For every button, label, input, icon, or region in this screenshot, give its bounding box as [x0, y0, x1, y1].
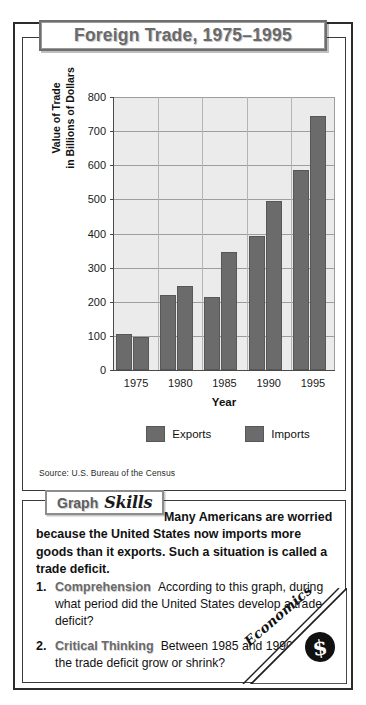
legend-item-exports: Exports — [146, 426, 211, 442]
bar-group — [114, 97, 158, 370]
y-axis-title-line1: Value of Trade — [50, 82, 62, 153]
x-tick-label: 1975 — [114, 377, 158, 389]
bar-exports-1985 — [204, 297, 220, 370]
y-axis-title-line2: in Billions of Dollars — [64, 67, 76, 169]
bar-imports-1995 — [310, 116, 326, 370]
question-title: Critical Thinking — [55, 639, 154, 653]
legend-label: Exports — [172, 428, 211, 440]
graph-skills-panel: Graph Skills Many Americans are worried … — [22, 500, 346, 683]
legend-swatch — [146, 426, 165, 442]
bar-exports-1975 — [116, 334, 132, 371]
bar-exports-1995 — [293, 170, 309, 370]
x-tick-label: 1985 — [202, 377, 246, 389]
graph-skills-badge: Graph Skills — [45, 490, 164, 515]
y-tick-label: 0 — [100, 364, 106, 376]
legend-item-imports: Imports — [245, 426, 309, 442]
badge-label-skills: Skills — [104, 493, 152, 512]
y-tick-label: 600 — [88, 159, 106, 171]
page-title: Foreign Trade, 1975–1995 — [74, 25, 292, 46]
y-tick-label: 200 — [88, 296, 106, 308]
y-tick-label: 400 — [88, 228, 106, 240]
bar-group — [247, 97, 291, 370]
lesson-card: Value of Trade in Billions of Dollars 01… — [13, 22, 353, 690]
legend-swatch — [245, 426, 264, 442]
bar-imports-1975 — [133, 337, 149, 370]
y-tick-mark — [110, 370, 114, 371]
y-tick-label: 800 — [88, 91, 106, 103]
source-note: Source: U.S. Bureau of the Census — [39, 468, 175, 478]
y-tick-label: 700 — [88, 125, 106, 137]
bar-imports-1990 — [266, 201, 282, 370]
x-tick-label: 1995 — [291, 377, 335, 389]
bar-exports-1980 — [160, 295, 176, 370]
legend-label: Imports — [271, 428, 309, 440]
x-tick-label: 1990 — [247, 377, 291, 389]
legend: ExportsImports — [113, 426, 343, 442]
question-title: Comprehension — [55, 580, 151, 594]
bar-imports-1980 — [177, 286, 193, 370]
badge-label-graph: Graph — [57, 495, 98, 511]
question-number: 1. — [36, 579, 47, 596]
title-banner: Foreign Trade, 1975–1995 — [39, 20, 327, 51]
bar-group — [158, 97, 202, 370]
x-axis-title: Year — [113, 396, 335, 408]
x-tick-label: 1980 — [158, 377, 202, 389]
y-tick-label: 500 — [88, 193, 106, 205]
question-number: 2. — [36, 638, 47, 655]
intro-paragraph: Many Americans are worried because the U… — [36, 509, 334, 578]
y-tick-label: 100 — [88, 330, 106, 342]
y-tick-label: 300 — [88, 262, 106, 274]
graph-panel: Value of Trade in Billions of Dollars 01… — [22, 37, 346, 491]
title-banner-inner: Foreign Trade, 1975–1995 — [41, 22, 325, 49]
economics-corner-banner: Economics $ — [235, 588, 347, 684]
bar-imports-1985 — [221, 252, 237, 370]
bar-group — [291, 97, 335, 370]
bar-group — [202, 97, 246, 370]
plot-area: Value of Trade in Billions of Dollars 01… — [23, 38, 345, 490]
y-axis-title: Value of Trade in Billions of Dollars — [49, 58, 77, 178]
plot-box: 0100200300400500600700800 19751980198519… — [113, 97, 335, 371]
bar-exports-1990 — [249, 236, 265, 370]
